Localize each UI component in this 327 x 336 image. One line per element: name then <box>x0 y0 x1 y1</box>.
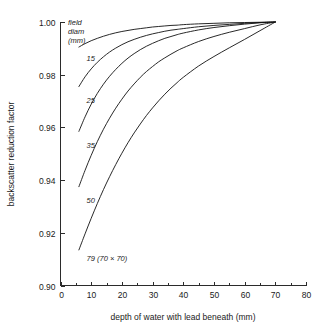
y-tick-label-0.90: 0.90 <box>39 282 56 292</box>
x-tick-label-60: 60 <box>241 290 251 300</box>
legend-header-line-3: (mm) <box>68 36 86 45</box>
curve-label-50: 50 <box>87 196 96 205</box>
chart-container: 0.900.920.940.960.981.00 010203040506070… <box>0 0 327 336</box>
x-tick-label-70: 70 <box>271 290 281 300</box>
y-tick-label-0.94: 0.94 <box>39 176 56 186</box>
x-tick-label-20: 20 <box>118 290 128 300</box>
x-tick-label-40: 40 <box>179 290 189 300</box>
x-tick-label-30: 30 <box>149 290 159 300</box>
x-tick-label-10: 10 <box>87 290 97 300</box>
x-tick-label-50: 50 <box>210 290 220 300</box>
legend-header-line-1: field <box>68 18 83 27</box>
curve-label-15: 15 <box>87 54 96 63</box>
y-tick-label-0.92: 0.92 <box>39 229 56 239</box>
curve-label-35: 35 <box>87 141 96 150</box>
x-tick-label-0: 0 <box>59 290 64 300</box>
y-axis-title: backscatter reduction factor <box>6 102 16 207</box>
legend-header-line-2: diam <box>68 27 84 36</box>
backscatter-reduction-chart: 0.900.920.940.960.981.00 010203040506070… <box>0 0 327 336</box>
y-tick-label-1.00: 1.00 <box>39 18 56 28</box>
y-tick-label-0.96: 0.96 <box>39 123 56 133</box>
x-tick-label-80: 80 <box>302 290 312 300</box>
y-tick-label-0.98: 0.98 <box>39 71 56 81</box>
curve-label-79: 79 (70 × 70) <box>87 254 128 263</box>
curve-label-25: 25 <box>86 96 96 105</box>
x-axis-title: depth of water with lead beneath (mm) <box>110 312 255 322</box>
